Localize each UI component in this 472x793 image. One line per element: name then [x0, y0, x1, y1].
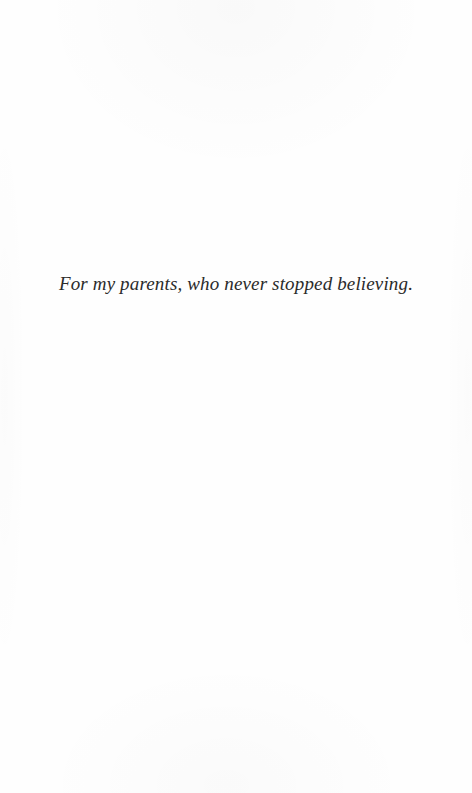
- dedication-page: For my parents, who never stopped believ…: [0, 0, 472, 793]
- dedication-block: For my parents, who never stopped believ…: [0, 272, 472, 296]
- dedication-text: For my parents, who never stopped believ…: [59, 272, 413, 296]
- paper-grain-overlay: [0, 0, 472, 793]
